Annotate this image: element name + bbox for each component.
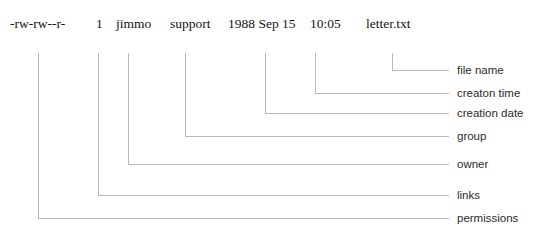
- field-label-creation-date: creation date: [457, 107, 524, 120]
- field-label-permissions: permissions: [457, 212, 518, 225]
- field-label-file-name: file name: [457, 64, 504, 77]
- field-label-owner: owner: [457, 158, 488, 171]
- field-label-column: file name creaton time creation date gro…: [0, 0, 553, 239]
- field-label-links: links: [457, 189, 480, 202]
- field-label-creation-time: creaton time: [457, 87, 520, 100]
- field-label-group: group: [457, 130, 486, 143]
